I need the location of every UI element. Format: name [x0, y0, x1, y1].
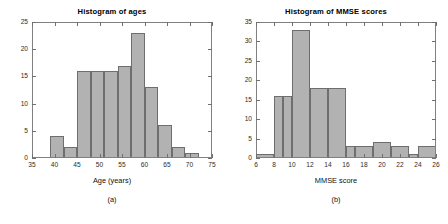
y-tick-mark [256, 41, 260, 42]
y-tick-mark-right [432, 61, 436, 62]
y-tick-mark-right [208, 158, 212, 159]
panel-b-title: Histogram of MMSE scores [224, 7, 448, 16]
x-tick-mark-top [292, 22, 293, 26]
y-tick-mark [256, 61, 260, 62]
y-tick-label: 10 [4, 100, 28, 107]
histogram-bar [418, 146, 436, 158]
x-tick-label: 16 [336, 161, 356, 168]
y-tick-label: 15 [4, 72, 28, 79]
y-tick-mark [256, 100, 260, 101]
x-tick-mark [292, 154, 293, 158]
histogram-bar [346, 146, 355, 158]
x-tick-label: 55 [112, 161, 132, 168]
y-tick-mark [256, 158, 260, 159]
plot-area-mmse [256, 22, 436, 158]
x-tick-label: 20 [372, 161, 392, 168]
histogram-bar [158, 125, 172, 158]
panel-a-title: Histogram of ages [0, 7, 224, 16]
x-tick-label: 26 [426, 161, 446, 168]
x-tick-mark-top [400, 22, 401, 26]
x-tick-label: 14 [318, 161, 338, 168]
x-tick-mark [436, 154, 437, 158]
histogram-bar [91, 71, 105, 158]
x-axis-title-ages: Age (years) [0, 176, 224, 185]
histogram-bar [185, 153, 199, 158]
y-tick-mark-right [208, 131, 212, 132]
histogram-bar [145, 87, 159, 158]
x-tick-label: 6 [246, 161, 266, 168]
x-tick-mark-top [77, 22, 78, 26]
x-tick-label: 24 [408, 161, 428, 168]
x-tick-mark [145, 154, 146, 158]
x-tick-mark [32, 154, 33, 158]
x-tick-label: 75 [202, 161, 222, 168]
y-tick-label: 5 [228, 135, 252, 142]
panel-b-caption: (b) [224, 195, 448, 204]
histogram-bar [104, 71, 118, 158]
histogram-bar [50, 136, 64, 158]
x-tick-label: 70 [180, 161, 200, 168]
histogram-bar [292, 30, 310, 158]
x-tick-mark-top [190, 22, 191, 26]
panel-histogram-mmse: Histogram of MMSE scores 05101520253035 … [224, 0, 448, 224]
plot-area-ages [32, 22, 212, 158]
y-tick-mark [256, 119, 260, 120]
x-tick-label: 65 [157, 161, 177, 168]
histogram-bar [409, 154, 418, 158]
y-tick-mark-right [432, 158, 436, 159]
x-tick-mark [190, 154, 191, 158]
x-tick-mark [167, 154, 168, 158]
x-tick-label: 45 [67, 161, 87, 168]
y-tick-label: 25 [4, 18, 28, 25]
x-tick-mark [77, 154, 78, 158]
y-tick-mark-right [432, 139, 436, 140]
histogram-bar [310, 88, 328, 158]
x-tick-mark-top [55, 22, 56, 26]
y-tick-label: 25 [228, 57, 252, 64]
x-tick-mark-top [32, 22, 33, 26]
x-tick-mark-top [364, 22, 365, 26]
y-tick-mark [256, 80, 260, 81]
x-tick-mark-top [145, 22, 146, 26]
bars-layer-mmse [256, 22, 436, 158]
x-tick-mark-top [328, 22, 329, 26]
y-tick-label: 5 [4, 127, 28, 134]
y-tick-mark [32, 49, 36, 50]
y-tick-mark-right [432, 100, 436, 101]
x-tick-mark [55, 154, 56, 158]
x-tick-mark-top [122, 22, 123, 26]
x-tick-label: 50 [90, 161, 110, 168]
x-tick-mark [400, 154, 401, 158]
x-tick-label: 12 [300, 161, 320, 168]
panel-a-caption: (a) [0, 195, 224, 204]
x-tick-mark-top [436, 22, 437, 26]
x-tick-mark [418, 154, 419, 158]
y-tick-mark [32, 76, 36, 77]
x-tick-mark-top [100, 22, 101, 26]
y-tick-label: 0 [4, 154, 28, 161]
x-tick-mark [274, 154, 275, 158]
x-tick-label: 35 [22, 161, 42, 168]
histogram-bar [64, 147, 78, 158]
x-tick-mark-top [418, 22, 419, 26]
y-tick-label: 35 [228, 18, 252, 25]
x-axis-title-mmse: MMSE score [224, 176, 448, 185]
x-tick-mark [100, 154, 101, 158]
y-tick-mark-right [432, 41, 436, 42]
x-tick-mark [310, 154, 311, 158]
y-tick-label: 10 [228, 115, 252, 122]
y-tick-label: 20 [228, 76, 252, 83]
x-tick-mark [328, 154, 329, 158]
x-tick-mark-top [256, 22, 257, 26]
histogram-bar [118, 66, 132, 158]
x-tick-mark-top [167, 22, 168, 26]
y-tick-mark-right [208, 76, 212, 77]
x-tick-mark [212, 154, 213, 158]
y-tick-label: 15 [228, 96, 252, 103]
x-tick-label: 40 [45, 161, 65, 168]
y-tick-mark-right [208, 104, 212, 105]
y-tick-mark-right [432, 80, 436, 81]
bars-layer-ages [32, 22, 212, 158]
histogram-bar [131, 33, 145, 158]
x-tick-label: 8 [264, 161, 284, 168]
